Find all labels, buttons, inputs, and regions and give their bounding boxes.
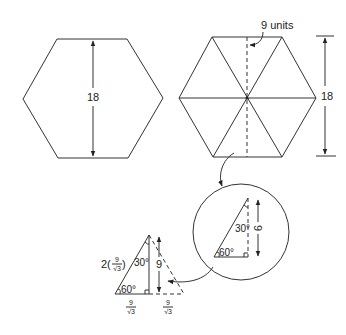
magnify-pointer-arrow — [221, 153, 235, 186]
apothem-pointer-arrow — [250, 32, 263, 45]
center-point — [246, 97, 249, 100]
derived-triangle: 30° 60° 9 2 ( 9 √3 ) 9 √3 9 √3 — [101, 235, 184, 315]
mirror-hypotenuse-dashed — [149, 235, 184, 294]
base-right-label: 9 √3 — [163, 299, 173, 315]
angle-60-label: 60° — [121, 284, 136, 295]
angle-30-label: 30° — [235, 223, 250, 234]
base-right-denominator: √3 — [164, 308, 172, 315]
angle-arc-top — [244, 205, 248, 207]
magnifier: 30° 60° 9 — [168, 184, 289, 282]
left-hexagon: 18 — [23, 39, 163, 158]
paren-close: ) — [122, 258, 126, 270]
derive-pointer-arrow — [168, 267, 213, 282]
hypotenuse-numerator: 9 — [115, 256, 119, 263]
angle-30-label: 30° — [134, 257, 149, 268]
height-label: 9 — [252, 225, 264, 231]
right-angle-mark — [145, 290, 149, 294]
base-right-numerator: 9 — [166, 299, 170, 306]
apothem-label: 9 units — [261, 19, 294, 31]
angle-arc-top — [145, 242, 149, 244]
right-hexagon: 9 units 18 — [179, 19, 336, 186]
hexagon-area-diagram: 18 9 units 18 30° 60° 9 — [0, 0, 346, 335]
paren-open: ( — [107, 258, 111, 270]
base-left-numerator: 9 — [129, 299, 133, 306]
base-left-denominator: √3 — [127, 308, 135, 315]
right-height-label: 18 — [321, 90, 333, 102]
left-height-label: 18 — [87, 91, 99, 103]
hypotenuse-denominator: √3 — [113, 265, 121, 272]
angle-arc-bottom — [118, 289, 120, 294]
right-angle-mark — [244, 253, 248, 257]
base-left-label: 9 √3 — [126, 299, 136, 315]
height-label: 9 — [156, 258, 162, 270]
angle-60-label: 60° — [219, 247, 234, 258]
hypotenuse-label: 2 ( 9 √3 ) — [101, 256, 126, 272]
